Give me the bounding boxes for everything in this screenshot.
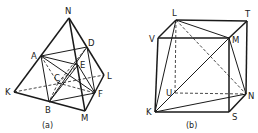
edge-AD-solid <box>41 47 87 56</box>
vertex-label-V: V <box>149 34 155 44</box>
vertex-label-B: B <box>45 105 51 115</box>
vertex-label-T: T <box>244 9 251 19</box>
edge-KL-solid <box>155 20 176 112</box>
vertex-label-A: A <box>31 51 37 61</box>
vertex-label-M: M <box>232 35 239 45</box>
vertex-label-K: K <box>5 87 11 97</box>
edge-BF-solid <box>49 93 95 102</box>
figure-a-tetrahedron: NADELCKBFM <box>5 6 112 123</box>
caption-b: (b) <box>186 121 197 130</box>
edge-UN-dashed <box>175 93 246 94</box>
edge-MN-solid <box>229 38 246 94</box>
edge-TN-edge <box>246 21 247 94</box>
vertex-label-S: S <box>232 112 237 122</box>
edge-LU-dashed <box>175 20 176 93</box>
vertex-label-M: M <box>81 113 88 123</box>
vertex-label-U: U <box>166 88 172 98</box>
vertex-label-K: K <box>146 107 152 117</box>
edge-NK-edge <box>14 18 69 92</box>
vertex-label-D: D <box>88 38 95 48</box>
vertex-label-F: F <box>98 89 103 99</box>
vertex-label-L: L <box>107 71 112 81</box>
edge-KM-solid <box>155 38 229 112</box>
edge-LT-edge <box>176 20 247 21</box>
edge-LM-solid <box>176 20 229 38</box>
vertex-label-C: C <box>54 73 60 83</box>
vertex-label-E: E <box>80 60 85 70</box>
figure-b-cube: LTVMUNKS <box>146 8 254 122</box>
edge-AE-solid <box>41 56 78 65</box>
vertex-label-N: N <box>248 91 254 101</box>
caption-a: (a) <box>42 121 53 130</box>
edge-EB-solid <box>49 65 78 102</box>
geometry-diagram: NADELCKBFM LTVMUNKS (a) (b) <box>0 0 258 133</box>
vertex-label-N: N <box>65 6 71 16</box>
vertex-label-L: L <box>172 8 177 18</box>
edge-LV-edge <box>158 20 176 38</box>
